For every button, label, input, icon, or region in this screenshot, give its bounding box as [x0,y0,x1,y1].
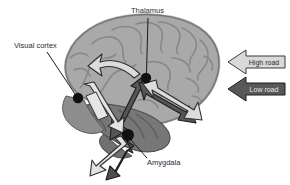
brain-pathway-diagram: Thalamus Visual cortex Amygdala High roa… [0,0,290,185]
low-road-legend-label: Low road [250,86,279,93]
legend-item-high-road: High road [228,50,285,74]
thalamus-label: Thalamus [131,6,164,15]
amygdala-marker-dot [122,129,134,141]
amygdala-label: Amygdala [147,158,181,167]
visual-cortex-label: Visual cortex [14,41,57,50]
high-road-legend-label: High road [249,59,279,67]
legend-item-low-road: Low road [228,77,285,101]
visual-cortex-marker-dot [73,93,83,103]
pathway-legend: High road Low road [228,50,285,101]
thalamus-marker-dot [141,73,151,83]
